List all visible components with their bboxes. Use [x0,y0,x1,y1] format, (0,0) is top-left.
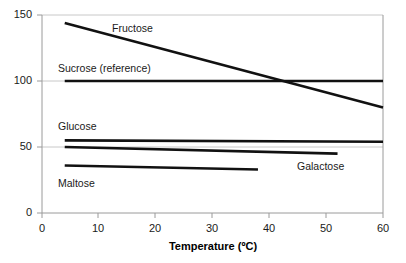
x-tick-label-10: 10 [84,222,112,234]
x-axis-title: Temperature (ºC) [103,240,323,252]
series-line-glucose [65,140,383,141]
series-label-galactose: Galactose [297,160,344,172]
x-tick-label-0: 0 [28,222,56,234]
x-tick-label-30: 30 [198,222,226,234]
x-tick-marks [42,213,383,218]
series-label-sucrose: Sucrose (reference) [58,62,151,74]
y-tick-marks [37,15,42,213]
series-label-fructose: Fructose [112,22,153,34]
x-tick-label-40: 40 [255,222,283,234]
y-tick-label-100: 100 [4,74,32,86]
x-tick-label-50: 50 [312,222,340,234]
series-line-galactose [65,147,338,154]
x-tick-label-20: 20 [141,222,169,234]
series-label-glucose: Glucose [58,120,97,132]
x-tick-label-60: 60 [369,222,397,234]
series-line-maltose [65,165,258,169]
sweetness-vs-temperature-chart: 150 100 50 0 0 10 20 30 40 50 60 Tempera… [0,0,406,263]
series-label-maltose: Maltose [58,177,95,189]
y-tick-label-150: 150 [4,8,32,20]
y-tick-label-0: 0 [4,206,32,218]
y-tick-label-50: 50 [4,140,32,152]
